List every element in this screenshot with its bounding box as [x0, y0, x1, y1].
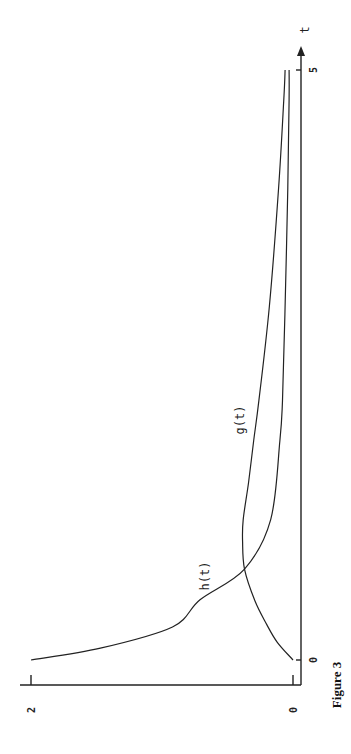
g-curve-label: g(t): [233, 406, 247, 435]
figure-caption: Figure 3: [329, 661, 344, 708]
figure-canvas: 5 0 2 0 t h(t) g(t) Figure 3: [0, 0, 351, 754]
t-axis-arrow-icon: [297, 46, 305, 56]
t-tick-label-5: 5: [308, 67, 319, 73]
h-curve-label: h(t): [198, 562, 212, 591]
g-curve: [242, 70, 293, 660]
value-tick-label-0: 0: [288, 707, 299, 713]
h-curve: [31, 70, 289, 660]
value-tick-label-2: 2: [26, 707, 37, 713]
t-axis-label: t: [298, 26, 312, 33]
t-tick-label-0: 0: [308, 657, 319, 663]
